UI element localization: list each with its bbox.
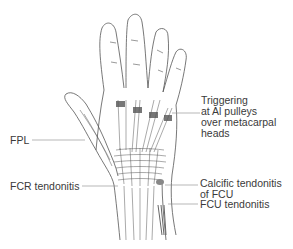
- label-calcific-tendonitis-fcu: Calcific tendonitis of FCU: [200, 178, 282, 200]
- thumb: [65, 90, 118, 176]
- label-fcu-tendonitis: FCU tendonitis: [200, 199, 269, 210]
- label-fcr-tendonitis: FCR tendonitis: [10, 181, 79, 192]
- a1-pulleys: [116, 101, 172, 121]
- little-finger: [163, 49, 186, 105]
- label-fpl: FPL: [10, 135, 29, 146]
- palm-ulnar-edge: [171, 105, 177, 235]
- middle-finger: [126, 14, 148, 88]
- label-triggering-a1-pulleys: Triggering at Al pulleys over metacarpal…: [201, 95, 276, 139]
- index-finger: [100, 23, 124, 90]
